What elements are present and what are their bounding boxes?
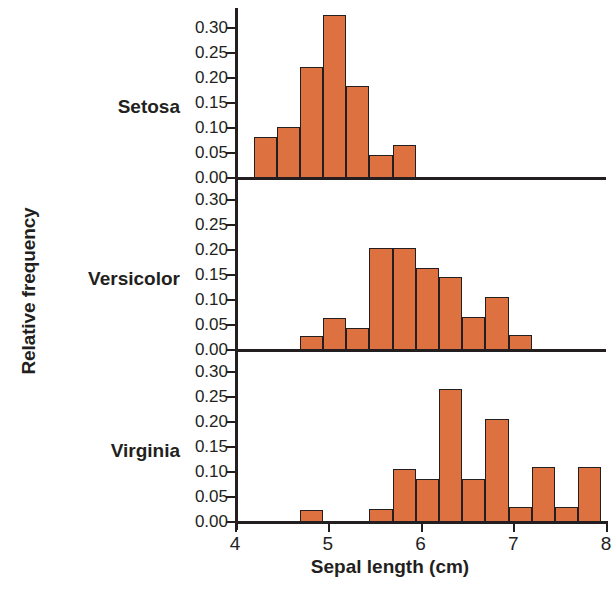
panel-versicolor: 0.000.050.100.150.200.250.30 (186, 182, 606, 360)
histogram-bar (462, 317, 485, 350)
histogram-bar (300, 67, 323, 178)
panel-label-column: Setosa Versicolor Virginia (20, 0, 180, 540)
y-tick-label: 0.10 (168, 291, 228, 308)
y-tick-label: 0.15 (168, 266, 228, 283)
histogram-bar (323, 318, 346, 350)
histogram-bar (509, 507, 532, 522)
plot-area-virginia (235, 354, 606, 522)
y-tick-label: 0.25 (168, 44, 228, 61)
y-tick-label: 0.20 (168, 69, 228, 86)
histogram-bar (485, 419, 508, 522)
y-tick-label: 0.30 (168, 191, 228, 208)
histogram-bar (578, 467, 601, 522)
panel-label-virginia: Virginia (20, 440, 180, 462)
histogram-bar (439, 277, 462, 350)
histogram-figure: Relative frequency Setosa Versicolor Vir… (0, 0, 614, 597)
x-tick-label: 8 (586, 533, 614, 555)
histogram-bar (393, 469, 416, 522)
histogram-bar (346, 86, 369, 178)
x-tick (606, 521, 608, 532)
histogram-bar (393, 145, 416, 178)
histogram-bar (346, 328, 369, 350)
panel-virginia: 0.000.050.100.150.200.250.30 (186, 354, 606, 532)
x-tick (513, 521, 515, 532)
histogram-bar (323, 15, 346, 178)
x-tick (328, 521, 330, 532)
y-tick-label: 0.05 (168, 316, 228, 333)
histogram-bar (393, 248, 416, 350)
x-tick (235, 521, 237, 532)
histogram-bar (416, 479, 439, 522)
y-tick-label: 0.25 (168, 216, 228, 233)
y-tick-label: 0.25 (168, 388, 228, 405)
histogram-bar (439, 389, 462, 522)
y-tick-label: 0.30 (168, 19, 228, 36)
histogram-bar (254, 137, 277, 178)
x-tick (421, 521, 423, 532)
plot-area-setosa (235, 10, 606, 178)
x-tick-label: 4 (215, 533, 255, 555)
histogram-bar (485, 297, 508, 350)
histogram-bar (416, 268, 439, 350)
y-tick-label: 0.30 (168, 363, 228, 380)
x-tick-label: 6 (401, 533, 441, 555)
y-tick-label: 0.10 (168, 463, 228, 480)
histogram-bar (509, 335, 532, 350)
x-axis-title: Sepal length (cm) (190, 556, 590, 578)
panel-label-setosa: Setosa (20, 96, 180, 118)
y-tick-label: 0.15 (168, 438, 228, 455)
panel-label-versicolor: Versicolor (20, 268, 180, 290)
histogram-bar (277, 127, 300, 178)
histogram-bar (532, 467, 555, 522)
plot-area-versicolor (235, 182, 606, 350)
histogram-bar (369, 248, 392, 350)
y-tick-label: 0.05 (168, 488, 228, 505)
y-tick-label: 0.10 (168, 119, 228, 136)
histogram-bar (462, 479, 485, 522)
y-tick-label: 0.15 (168, 94, 228, 111)
x-tick-label: 5 (308, 533, 348, 555)
x-axis: 45678 (186, 521, 606, 561)
y-tick-label: 0.05 (168, 144, 228, 161)
histogram-bar (555, 507, 578, 522)
panel-setosa: 0.000.050.100.150.200.250.30 (186, 10, 606, 188)
y-tick-label: 0.20 (168, 413, 228, 430)
histogram-bar (369, 155, 392, 178)
histogram-bar (300, 336, 323, 350)
y-tick-label: 0.20 (168, 241, 228, 258)
x-tick-label: 7 (493, 533, 533, 555)
